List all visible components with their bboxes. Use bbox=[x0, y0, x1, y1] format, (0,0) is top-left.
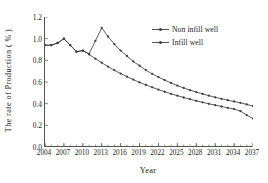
y-tick-label: 0.4 bbox=[18, 99, 42, 108]
data-point-marker bbox=[113, 69, 115, 71]
legend-item-infill-well: Infill well bbox=[152, 36, 252, 49]
data-point-marker bbox=[164, 79, 166, 81]
data-point-marker bbox=[214, 104, 216, 106]
y-axis-title: The rate of Production ( % ) bbox=[5, 28, 14, 132]
data-point-marker bbox=[233, 108, 235, 110]
data-point-marker bbox=[107, 35, 109, 37]
data-point-marker bbox=[208, 95, 210, 97]
legend-item-non-infill-well: Non infill well bbox=[152, 23, 252, 36]
x-tick-label: 2028 bbox=[188, 149, 202, 157]
legend-key-line-icon bbox=[152, 38, 169, 47]
x-tick-label: 2007 bbox=[56, 149, 70, 157]
data-point-marker bbox=[145, 69, 147, 71]
data-point-marker bbox=[151, 86, 153, 88]
data-point-marker bbox=[227, 99, 229, 101]
data-point-marker bbox=[45, 44, 46, 46]
y-tick-label: 0.6 bbox=[18, 78, 42, 87]
data-point-marker bbox=[208, 103, 210, 105]
y-tick-label: 1.2 bbox=[18, 13, 42, 22]
data-point-marker bbox=[183, 87, 185, 89]
x-axis-tick-labels: 2004200720102013201620192022202520282031… bbox=[44, 149, 252, 163]
data-point-marker bbox=[189, 89, 191, 91]
x-axis-title: Year bbox=[44, 166, 252, 175]
data-point-marker bbox=[126, 55, 128, 57]
data-point-marker bbox=[132, 60, 134, 62]
data-point-marker bbox=[101, 27, 103, 29]
data-point-marker bbox=[201, 93, 203, 95]
data-point-marker bbox=[94, 40, 96, 42]
data-point-marker bbox=[220, 98, 222, 100]
data-point-marker bbox=[82, 49, 84, 51]
data-point-marker bbox=[113, 43, 115, 45]
data-point-marker bbox=[151, 73, 153, 75]
data-point-marker bbox=[214, 96, 216, 98]
x-tick-label: 2022 bbox=[150, 149, 164, 157]
data-point-marker bbox=[63, 38, 65, 40]
data-point-marker bbox=[227, 107, 229, 109]
data-point-marker bbox=[157, 76, 159, 78]
data-point-marker bbox=[119, 49, 121, 51]
data-point-marker bbox=[189, 98, 191, 100]
data-point-marker bbox=[107, 65, 109, 67]
chart-legend: Non infill well Infill well bbox=[152, 23, 252, 49]
data-point-marker bbox=[138, 65, 140, 67]
data-point-marker bbox=[119, 72, 121, 74]
data-point-marker bbox=[50, 44, 52, 46]
x-tick-label: 2034 bbox=[226, 149, 240, 157]
legend-label: Non infill well bbox=[172, 25, 218, 34]
data-point-marker bbox=[176, 95, 178, 97]
y-tick-label: 0.8 bbox=[18, 56, 42, 65]
x-tick-label: 2031 bbox=[207, 149, 221, 157]
x-tick-label: 2019 bbox=[131, 149, 145, 157]
data-point-marker bbox=[126, 76, 128, 78]
data-point-marker bbox=[69, 44, 71, 46]
data-point-marker bbox=[183, 96, 185, 98]
legend-key-line-icon bbox=[152, 25, 169, 34]
x-tick-label: 2013 bbox=[94, 149, 108, 157]
data-point-marker bbox=[132, 78, 134, 80]
x-tick-label: 2037 bbox=[245, 149, 259, 157]
data-point-marker bbox=[170, 82, 172, 84]
data-point-marker bbox=[75, 51, 77, 53]
y-tick-label: 0.2 bbox=[18, 121, 42, 130]
data-point-marker bbox=[145, 84, 147, 86]
data-point-marker bbox=[201, 101, 203, 103]
data-point-marker bbox=[176, 84, 178, 86]
data-point-marker bbox=[239, 110, 241, 112]
legend-label: Infill well bbox=[172, 38, 203, 47]
data-point-marker bbox=[164, 91, 166, 93]
data-point-marker bbox=[220, 105, 222, 107]
data-point-marker bbox=[246, 103, 248, 105]
data-point-marker bbox=[157, 88, 159, 90]
x-tick-label: 2016 bbox=[112, 149, 126, 157]
data-point-marker bbox=[195, 100, 197, 102]
data-point-marker bbox=[56, 42, 58, 44]
x-tick-label: 2010 bbox=[75, 149, 89, 157]
x-tick-label: 2004 bbox=[37, 149, 51, 157]
data-point-marker bbox=[246, 114, 248, 116]
data-point-marker bbox=[101, 62, 103, 64]
data-point-marker bbox=[239, 102, 241, 104]
y-axis-tick-labels: 0.00.20.40.60.81.01.2 bbox=[16, 17, 42, 147]
y-tick-label: 1.0 bbox=[18, 34, 42, 43]
data-point-marker bbox=[138, 81, 140, 83]
data-point-marker bbox=[252, 105, 253, 107]
data-point-marker bbox=[94, 58, 96, 60]
data-point-marker bbox=[195, 91, 197, 93]
data-point-marker bbox=[88, 53, 90, 55]
chart-figure: The rate of Production ( % ) 0.00.20.40.… bbox=[0, 0, 268, 183]
data-point-marker bbox=[170, 93, 172, 95]
data-point-marker bbox=[233, 100, 235, 102]
x-tick-label: 2025 bbox=[169, 149, 183, 157]
